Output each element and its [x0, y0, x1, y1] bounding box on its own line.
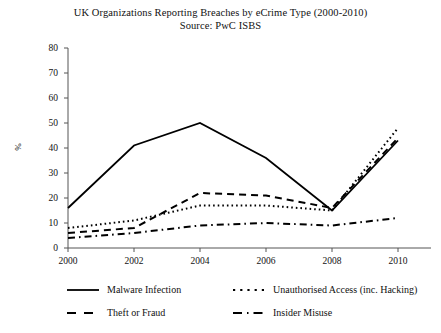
legend-key-dashdot-icon	[232, 308, 266, 318]
legend-item-malware-infection: Malware Infection	[66, 284, 181, 295]
data-series-group	[68, 123, 398, 238]
legend-key-dashed-icon	[66, 308, 100, 318]
series-line-unauthorised-access-inc-hacking	[68, 128, 398, 228]
legend-row-1: Malware Infection Unauthorised Access (i…	[0, 284, 441, 304]
chart-legend: Malware Infection Unauthorised Access (i…	[0, 282, 441, 330]
legend-item-theft-or-fraud: Theft or Fraud	[66, 307, 165, 318]
legend-row-2: Theft or Fraud Insider Misuse	[0, 307, 441, 327]
series-line-theft-or-fraud	[68, 138, 398, 233]
legend-item-insider-misuse: Insider Misuse	[232, 307, 332, 318]
series-line-insider-misuse	[68, 218, 398, 238]
legend-key-dotted-icon	[232, 285, 266, 295]
chart-container: UK Organizations Reporting Breaches by e…	[0, 0, 441, 333]
series-line-malware-infection	[68, 123, 398, 211]
legend-label: Theft or Fraud	[107, 307, 165, 318]
legend-label: Insider Misuse	[273, 307, 332, 318]
legend-item-unauthorised-access: Unauthorised Access (inc. Hacking)	[232, 284, 417, 295]
legend-label: Malware Infection	[107, 284, 181, 295]
legend-key-solid-icon	[66, 285, 100, 295]
legend-label: Unauthorised Access (inc. Hacking)	[273, 284, 417, 295]
